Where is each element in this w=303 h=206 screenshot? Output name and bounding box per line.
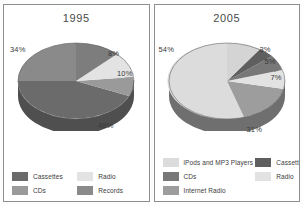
pie-label-cassettes: 3% xyxy=(260,45,271,54)
legend-item-radio[interactable]: Radio xyxy=(255,172,300,181)
legend-swatch-icon-radio xyxy=(255,172,271,181)
legend-swatch-icon-ipods xyxy=(163,158,179,167)
legend-item-internet-radio[interactable]: Internet Radio xyxy=(163,186,254,195)
legend-label-radio: Radio xyxy=(98,173,115,180)
pie-label-internet-radio: 31% xyxy=(247,125,263,134)
page-title-1995: 1995 xyxy=(4,11,149,25)
pie-svg-1995 xyxy=(11,29,141,131)
legend-label-cds: CDs xyxy=(184,173,197,180)
legend-label-records: Records xyxy=(98,187,123,194)
pie-slice-records xyxy=(18,43,76,81)
legend-swatch-icon-cds xyxy=(12,186,28,195)
pie-label-cds: 10% xyxy=(117,69,133,78)
legend-item-cds[interactable]: CDs xyxy=(163,172,254,181)
pie-1995 xyxy=(11,29,141,131)
legend-label-radio: Radio xyxy=(276,173,293,180)
pie-label-cassettes: 48% xyxy=(98,121,114,130)
chart-panel-2005: 2005 xyxy=(154,4,301,202)
pie-chart-area-1995: 34% 8% 10% 48% xyxy=(4,25,149,133)
legend-item-cassettes[interactable]: Cassettes xyxy=(255,158,300,167)
legend-item-ipods[interactable]: iPods and MP3 Players xyxy=(163,158,254,167)
legend-label-cassettes: Cassettes xyxy=(33,173,63,180)
legend-2005: iPods and MP3 Players Cassettes CDs Radi… xyxy=(155,158,300,195)
figure-canvas: 1995 xyxy=(0,0,303,206)
legend-swatch-icon-cassettes xyxy=(255,158,271,167)
legend-1995: Cassettes Radio CDs Records xyxy=(4,172,149,195)
pie-chart-area-2005: 54% 3% 5% 7% 31% xyxy=(155,25,300,133)
legend-swatch-icon-records xyxy=(77,186,93,195)
legend-item-cassettes[interactable]: Cassettes xyxy=(12,172,75,181)
legend-item-cds[interactable]: CDs xyxy=(12,186,75,195)
pie-label-records: 34% xyxy=(10,45,26,54)
legend-swatch-icon-cassettes xyxy=(12,172,28,181)
pie-label-ipods: 54% xyxy=(159,45,175,54)
pie-label-radio: 7% xyxy=(271,73,282,82)
legend-label-cds: CDs xyxy=(33,187,46,194)
legend-item-records[interactable]: Records xyxy=(77,186,140,195)
legend-label-ipods: iPods and MP3 Players xyxy=(184,159,254,166)
legend-label-cassettes: Cassettes xyxy=(276,159,300,166)
chart-panel-1995: 1995 xyxy=(3,4,150,202)
pie-label-cds: 5% xyxy=(265,57,276,66)
legend-swatch-icon-internet-radio xyxy=(163,186,179,195)
page-title-2005: 2005 xyxy=(155,11,300,25)
legend-swatch-icon-cds xyxy=(163,172,179,181)
legend-label-internet-radio: Internet Radio xyxy=(184,187,226,194)
legend-item-radio[interactable]: Radio xyxy=(77,172,140,181)
pie-label-radio: 8% xyxy=(108,49,119,58)
legend-swatch-icon-radio xyxy=(77,172,93,181)
